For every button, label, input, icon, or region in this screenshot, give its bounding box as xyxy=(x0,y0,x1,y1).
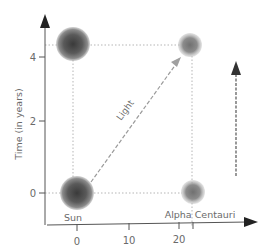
alpha-centauri-sphere-future xyxy=(178,33,202,57)
sun-sphere-future xyxy=(56,27,90,61)
x-tick-label-10: 10 xyxy=(123,235,136,246)
sun-label: Sun xyxy=(64,212,82,223)
arrow-up-icon xyxy=(231,61,241,75)
light-ray-arrow xyxy=(91,57,181,182)
y-axis-label: Time (in years) xyxy=(13,88,24,161)
x-axis-arrow-icon xyxy=(244,217,258,227)
time-direction-arrow xyxy=(231,61,241,176)
x-tick-label-0: 0 xyxy=(74,236,80,247)
x-tick-label-20: 20 xyxy=(173,234,186,245)
light-label: Light xyxy=(115,98,137,122)
sun-sphere xyxy=(60,176,94,210)
alpha-centauri-sphere xyxy=(181,180,205,204)
alpha-centauri-label: Alpha Centauri xyxy=(165,209,236,220)
y-tick-label-0: 0 xyxy=(30,188,36,199)
y-axis: 4 2 0 Time (in years) xyxy=(13,14,50,225)
y-tick-label-4: 4 xyxy=(30,52,36,63)
y-tick-label-2: 2 xyxy=(30,116,36,127)
spacetime-diagram: Light 4 2 0 Time (in years) 0 10 20 Sun … xyxy=(0,0,268,252)
y-axis-arrow-icon xyxy=(40,14,50,28)
arrowhead-icon xyxy=(171,57,181,67)
